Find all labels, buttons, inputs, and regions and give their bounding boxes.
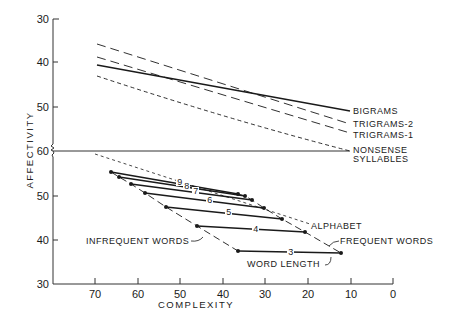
x-tick: 0: [390, 288, 396, 300]
y-tick: 50: [37, 101, 49, 113]
line-label-3: 3: [288, 247, 294, 257]
x-tick-labels: 70 60 50 40 30 20 10 0: [89, 288, 396, 300]
x-axis-title: COMPLEXITY: [158, 299, 234, 310]
x-tick: 10: [345, 288, 357, 300]
x-tick: 60: [132, 288, 144, 300]
word-length-label: WORD LENGTH: [247, 259, 320, 269]
y-tick: 50: [37, 190, 49, 202]
frequent-words-label: FREQUENT WORDS: [340, 236, 433, 246]
y-tick: 60: [37, 145, 49, 157]
upper-series: [97, 44, 350, 151]
trigrams-2-label: TRIGRAMS-2: [353, 119, 414, 129]
syllables-label: SYLLABLES: [353, 154, 409, 164]
line-label-6: 6: [207, 195, 213, 205]
bigrams-label: BIGRAMS: [353, 106, 398, 116]
x-tick: 20: [302, 288, 314, 300]
infrequent-words-label: INFREQUENT WORDS: [86, 236, 189, 246]
y-tick: 30: [37, 13, 49, 25]
line-label-9: 9: [177, 177, 183, 187]
frequent-words-pointer: [329, 241, 339, 246]
y-tick: 30: [37, 278, 49, 290]
line-label-8: 8: [184, 181, 190, 191]
bigrams-line: [97, 65, 350, 111]
y-tick: 40: [37, 234, 49, 246]
infrequent-words-pointer: [191, 237, 203, 241]
line-number-labels: 9 8 7 6 5 4 3: [176, 177, 294, 257]
chart: 30 40 50 60 50 40 30 70 60 50 40 30 20 1…: [0, 0, 452, 326]
line-label-5: 5: [226, 207, 232, 217]
y-axis-upper-line: [51, 19, 59, 151]
trigrams-1-line: [97, 57, 350, 133]
line-label-4: 4: [253, 224, 259, 234]
y-tick-labels: 30 40 50 60 50 40 30: [37, 13, 49, 290]
trigrams-1-label: TRIGRAMS-1: [353, 130, 414, 140]
y-tick: 40: [37, 56, 49, 68]
x-tick: 70: [89, 288, 101, 300]
x-tick: 30: [259, 288, 271, 300]
alphabet-label: ALPHABET: [311, 221, 362, 231]
y-axis-title: AFFECTIVITY: [24, 111, 35, 188]
word-length-pointer: [325, 257, 331, 265]
y-axis-lower-line: [52, 151, 393, 284]
trigrams-2-line: [97, 44, 350, 124]
line-label-7: 7: [193, 186, 199, 196]
